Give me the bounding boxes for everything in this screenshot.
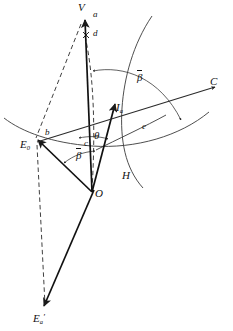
label-e0: E0 [20,139,30,151]
diagram-canvas: V a d C β β θ c e b H O Ia E0 Ea′ [0,0,233,331]
label-d: d [93,29,98,38]
label-ea-prime: Ea′ [33,313,45,325]
line-o-to-v [85,20,92,192]
label-o: O [95,188,103,199]
label-e: e [142,122,146,131]
label-b: b [45,128,50,137]
label-a: a [93,10,98,19]
dashed-vertical-e0-ea [37,145,45,305]
line-e0-to-c [37,87,215,142]
label-c: C [210,76,217,87]
label-beta-upper: β [137,72,142,83]
diagram-svg [0,0,233,331]
arc-great-circle-upper [122,16,152,188]
arc-horizon-through-e0 [4,112,209,146]
label-v: V [78,2,85,13]
label-theta: θ [94,130,99,141]
label-h: H [122,170,130,181]
label-beta-lower: β [76,150,81,161]
line-o-to-ea-prime [44,190,94,306]
dashed-line-v-e0 [36,24,81,138]
line-o-to-ia [92,104,115,192]
label-ia: Ia [116,102,123,114]
label-c-lower: c [84,139,88,148]
